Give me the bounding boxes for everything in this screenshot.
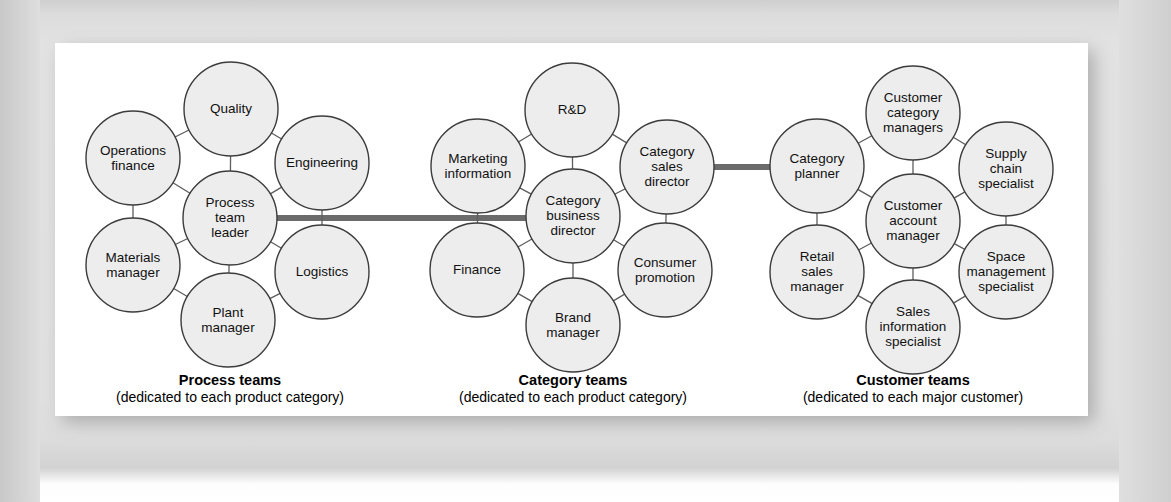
- node-consumer-promotion[interactable]: Consumerpromotion: [618, 223, 712, 317]
- caption-title-category-teams: Category teams: [519, 372, 628, 388]
- ring-sales-information-specialist-to-retail-sales-manager: [858, 295, 872, 303]
- spoke-customer-account-manager-to-supply-chain-specialist: [954, 192, 965, 198]
- ring-brand-manager-to-finance: [518, 293, 532, 301]
- node-category-sales-director[interactable]: Categorysalesdirector: [620, 120, 714, 214]
- ring-quality-to-engineering: [271, 133, 281, 139]
- caption-process-teams: Process teams(dedicated to each product …: [116, 372, 344, 405]
- node-quality[interactable]: Quality: [184, 62, 278, 156]
- node-engineering[interactable]: Engineering: [275, 116, 369, 210]
- category-planner-label: Categoryplanner: [790, 150, 845, 180]
- ring-logistics-to-plant-manager: [270, 293, 280, 298]
- spoke-customer-account-manager-to-retail-sales-manager: [859, 243, 872, 250]
- node-category-planner[interactable]: Categoryplanner: [770, 119, 864, 213]
- ring-marketing-information-to-r-and-d: [518, 134, 531, 142]
- finance-label: Finance: [453, 262, 501, 277]
- customer-category-managers-label: Customercategorymanagers: [883, 90, 943, 135]
- spoke-process-team-leader-to-materials-manager: [175, 238, 187, 244]
- node-supply-chain-specialist[interactable]: Supplychainspecialist: [959, 122, 1053, 216]
- node-marketing-information[interactable]: Marketinginformation: [431, 119, 525, 213]
- node-retail-sales-manager[interactable]: Retailsalesmanager: [770, 225, 864, 319]
- spoke-customer-account-manager-to-category-planner: [858, 189, 872, 197]
- figure-page: QualityEngineeringLogisticsPlantmanagerM…: [0, 0, 1171, 502]
- ring-plant-manager-to-materials-manager: [174, 289, 188, 297]
- node-customer-category-managers[interactable]: Customercategorymanagers: [866, 66, 960, 160]
- spoke-process-team-leader-to-engineering: [270, 187, 281, 194]
- ring-space-management-specialist-to-sales-information-specialist: [953, 296, 965, 303]
- node-customer-account-manager[interactable]: Customeraccountmanager: [866, 174, 960, 268]
- consumer-promotion-label: Consumerpromotion: [634, 254, 697, 284]
- node-category-business-director[interactable]: Categorybusinessdirector: [526, 169, 620, 263]
- node-r-and-d[interactable]: R&D: [525, 63, 619, 157]
- team-structure-diagram: QualityEngineeringLogisticsPlantmanagerM…: [0, 0, 1171, 502]
- ring-operations-finance-to-quality: [175, 130, 189, 137]
- category-business-director-label: Categorybusinessdirector: [546, 193, 601, 238]
- caption-layer: Process teams(dedicated to each product …: [116, 372, 1023, 405]
- caption-title-customer-teams: Customer teams: [856, 372, 970, 388]
- caption-customer-teams: Customer teams(dedicated to each major c…: [803, 372, 1023, 405]
- node-plant-manager[interactable]: Plantmanager: [181, 273, 275, 367]
- node-finance[interactable]: Finance: [430, 223, 524, 317]
- caption-subtitle-customer-teams: (dedicated to each major customer): [803, 389, 1023, 405]
- spoke-customer-account-manager-to-space-management-specialist: [954, 244, 965, 250]
- caption-subtitle-category-teams: (dedicated to each product category): [459, 389, 687, 405]
- spoke-process-team-leader-to-logistics: [271, 242, 282, 248]
- ring-category-planner-to-customer-category-managers: [858, 136, 872, 144]
- node-logistics[interactable]: Logistics: [275, 225, 369, 319]
- quality-label: Quality: [210, 101, 252, 116]
- node-space-management-specialist[interactable]: Spacemanagementspecialist: [959, 225, 1053, 319]
- ring-customer-category-managers-to-supply-chain-specialist: [953, 137, 965, 145]
- spoke-category-business-director-to-finance: [518, 239, 532, 247]
- logistics-label: Logistics: [296, 264, 349, 279]
- caption-category-teams: Category teams(dedicated to each product…: [459, 372, 687, 405]
- materials-manager-label: Materialsmanager: [106, 249, 161, 279]
- ring-r-and-d-to-category-sales-director: [612, 134, 626, 143]
- customer-account-manager-label: Customeraccountmanager: [884, 198, 943, 243]
- caption-subtitle-process-teams: (dedicated to each product category): [116, 389, 344, 405]
- spoke-category-business-director-to-category-sales-director: [615, 189, 626, 195]
- node-brand-manager[interactable]: Brandmanager: [526, 278, 620, 372]
- marketing-information-label: Marketinginformation: [445, 150, 512, 180]
- node-process-team-leader[interactable]: Processteamleader: [183, 171, 277, 265]
- spoke-category-business-director-to-consumer-promotion: [614, 240, 625, 246]
- spoke-category-business-director-to-marketing-information: [520, 188, 532, 194]
- r-and-d-label: R&D: [558, 102, 587, 117]
- node-layer: QualityEngineeringLogisticsPlantmanagerM…: [86, 62, 1053, 374]
- ring-consumer-promotion-to-brand-manager: [613, 294, 624, 301]
- node-operations-finance[interactable]: Operationsfinance: [86, 111, 180, 205]
- spoke-process-team-leader-to-operations-finance: [173, 183, 190, 194]
- node-materials-manager[interactable]: Materialsmanager: [86, 218, 180, 312]
- engineering-label: Engineering: [286, 155, 358, 170]
- caption-title-process-teams: Process teams: [179, 372, 281, 388]
- node-sales-information-specialist[interactable]: Salesinformationspecialist: [866, 280, 960, 374]
